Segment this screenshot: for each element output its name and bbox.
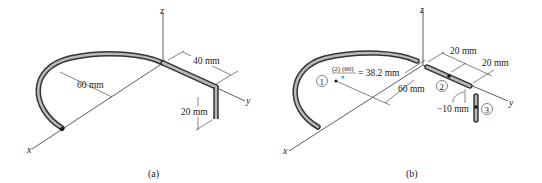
x-axis-b [289, 65, 423, 151]
segment-2-centroid [447, 74, 451, 78]
figure-a: z x y 60 mm 40 mm 20 mm (a) [26, 5, 251, 180]
segment-2-number: 2 [440, 82, 445, 92]
radius-label-b: 60 mm [398, 84, 425, 94]
caption-a: (a) [148, 168, 159, 180]
drop-label-a: 20 mm [181, 107, 208, 117]
ext-line-b2 [451, 63, 466, 72]
ext-line-a1 [168, 51, 184, 60]
centroid-ext-line-b [336, 81, 390, 105]
caption-b: (b) [406, 168, 418, 180]
segment-3-number: 3 [485, 105, 490, 115]
rod-end-a [60, 127, 64, 131]
leader-neg10 [453, 92, 464, 103]
x-axis-label-b: x [282, 145, 288, 156]
length-label-a: 40 mm [193, 56, 220, 66]
seg2-half-label: 20 mm [450, 46, 477, 56]
diagram-canvas: z x y 60 mm 40 mm 20 mm (a) z [0, 0, 542, 183]
x-axis-a [32, 63, 163, 149]
x-axis-label-a: x [26, 144, 32, 155]
radius-label-a: 60 mm [77, 80, 104, 90]
y-axis-label-a: y [245, 95, 251, 106]
z-axis-label-a: z [159, 5, 164, 16]
formula-numerator: (2) (60) [332, 65, 354, 73]
rod-straight-a [163, 63, 216, 87]
y-axis-label-b: y [508, 97, 514, 108]
seg3-z-label: −10 mm [437, 104, 470, 114]
segment-3-centroid [474, 105, 478, 109]
seg2-full-label: 20 mm [482, 58, 509, 68]
formula-denominator: π [341, 73, 345, 81]
rod-semicircle-outline-a [38, 54, 163, 128]
segment-1-number: 1 [320, 77, 325, 87]
figure-b: z x y 1 2 3 (2) (60) π = 38.2 mm 60 mm [282, 4, 514, 180]
ext-line-b1 [428, 52, 444, 62]
formula-result: = 38.2 mm [358, 68, 400, 78]
ext-line-a3 [196, 120, 212, 130]
z-axis-label-b: z [419, 4, 424, 15]
